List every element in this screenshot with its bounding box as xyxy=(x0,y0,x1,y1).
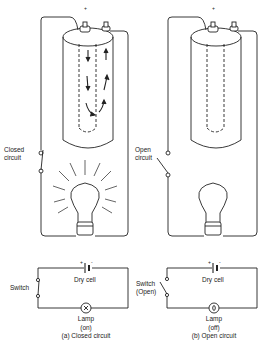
label-line-1: Open xyxy=(135,146,152,154)
switch-blade-open xyxy=(157,158,168,173)
wire-bottom-left-a xyxy=(41,172,76,236)
wire-top-left-b xyxy=(168,17,206,153)
open-circuit-label: Open circuit xyxy=(135,146,152,161)
lamp-label-a: Lamp xyxy=(78,315,94,323)
closed-circuit-label: Closed circuit xyxy=(4,146,24,161)
switch-label-b: Switch (Open) xyxy=(136,280,156,295)
circuit-drawing xyxy=(0,0,272,350)
wire-right-a xyxy=(95,31,128,236)
lamp-label-b: Lamp xyxy=(206,315,222,323)
panel-b-pictorial xyxy=(157,17,257,236)
cell-plus-b: + xyxy=(208,259,211,267)
switch-label-a: Switch xyxy=(10,284,29,292)
lamp-off-b xyxy=(199,183,227,235)
wire-bottom-left-b xyxy=(168,175,204,236)
label-line-2: circuit xyxy=(135,154,152,162)
dry-cell-b xyxy=(191,22,241,148)
wire-top-left-a xyxy=(41,17,78,150)
current-arrows-a xyxy=(86,49,109,116)
caption-a: (a) Closed circuit xyxy=(62,332,111,340)
dry-cell-label-a: Dry cell xyxy=(74,276,96,284)
schematic-a xyxy=(36,263,128,313)
switch-state-text: (Open) xyxy=(136,288,156,296)
cell-minus-b: - xyxy=(219,259,221,267)
switch-terminal-b1 xyxy=(166,151,170,155)
switch-label-text: Switch xyxy=(136,280,156,288)
terminal-plus-b: + xyxy=(212,5,215,13)
label-line-2: circuit xyxy=(4,154,24,162)
lamp-state-b: (off) xyxy=(208,324,219,332)
lamp-symbol-b xyxy=(209,303,219,313)
cell-plus-a: + xyxy=(80,259,83,267)
switch-terminal-b2 xyxy=(166,173,170,177)
cell-minus-a: - xyxy=(91,259,93,267)
dry-cell-label-b: Dry cell xyxy=(202,276,224,284)
circuit-figure: Closed circuit + Open circuit + Switch +… xyxy=(0,0,272,350)
wire-right-b xyxy=(223,31,257,236)
lamp-on-a xyxy=(53,160,117,235)
terminal-plus-a: + xyxy=(84,5,87,13)
light-rays xyxy=(53,160,117,213)
lamp-state-a: (on) xyxy=(80,324,92,332)
caption-b: (b) Open circuit xyxy=(192,332,236,340)
label-line-1: Closed xyxy=(4,146,24,154)
schematic-b xyxy=(160,263,257,313)
panel-a-pictorial xyxy=(39,17,128,236)
